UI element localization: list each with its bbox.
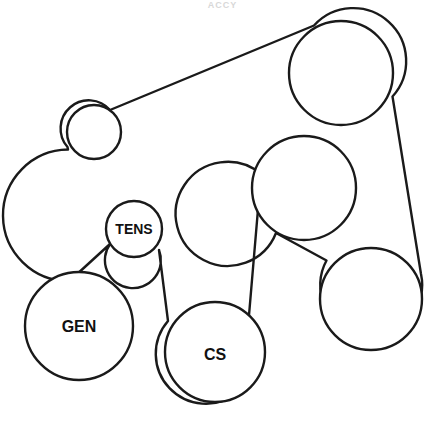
pulley-label-tensioner: TENS: [115, 221, 152, 237]
belt-routing-canvas: TENS GEN CS: [0, 0, 445, 433]
pulley-middle-right[interactable]: [252, 136, 356, 240]
pulley-idler-upper-left[interactable]: [67, 105, 121, 159]
pulley-label-generator: GEN: [62, 318, 97, 335]
pulley-lower-right[interactable]: [320, 248, 422, 350]
pulley-label-crankshaft: CS: [204, 346, 227, 363]
serpentine-belt-diagram: ACCY TENS GEN CS: [0, 0, 445, 433]
pulley-upper-right[interactable]: [289, 21, 393, 125]
